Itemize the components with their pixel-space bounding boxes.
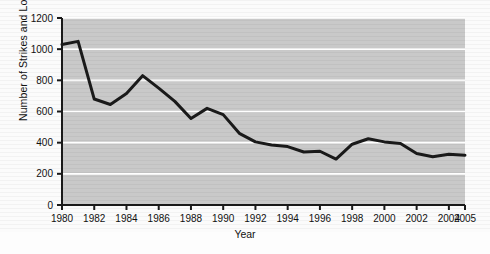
- y-axis-title: Number of Strikes and Lockouts: [13, 0, 29, 121]
- y-tick-label: 400: [36, 137, 53, 148]
- x-tick-label: 1998: [341, 213, 364, 224]
- y-tick-label: 600: [36, 106, 53, 117]
- x-tick-label: 1994: [277, 213, 300, 224]
- x-axis: 1980198219841986198819901992199419961998…: [51, 205, 477, 224]
- x-tick-label: 1988: [180, 213, 203, 224]
- y-tick-label: 1000: [31, 44, 54, 55]
- x-tick-label: 1980: [51, 213, 74, 224]
- x-tick-label: 1984: [115, 213, 138, 224]
- x-tick-label: 1990: [212, 213, 235, 224]
- y-axis-title-text: Number of Strikes and Lockouts: [17, 0, 29, 121]
- x-tick-label: 2000: [373, 213, 396, 224]
- y-tick-label: 800: [36, 75, 53, 86]
- x-tick-label: 1982: [83, 213, 106, 224]
- x-tick-label: 1986: [148, 213, 171, 224]
- x-tick-label: 1996: [309, 213, 332, 224]
- y-tick-label: 1200: [31, 13, 54, 24]
- x-axis-title: Year: [0, 228, 490, 240]
- y-tick-label: 0: [47, 200, 53, 211]
- figure: 020040060080010001200 198019821984198619…: [0, 0, 490, 254]
- line-chart: 020040060080010001200 198019821984198619…: [0, 0, 490, 232]
- x-tick-label: 2002: [406, 213, 429, 224]
- chart-frame: 020040060080010001200 198019821984198619…: [0, 0, 490, 232]
- x-tick-label: 1992: [244, 213, 267, 224]
- y-axis: 020040060080010001200: [31, 13, 62, 211]
- y-tick-label: 200: [36, 168, 53, 179]
- x-tick-label: 2005: [454, 213, 477, 224]
